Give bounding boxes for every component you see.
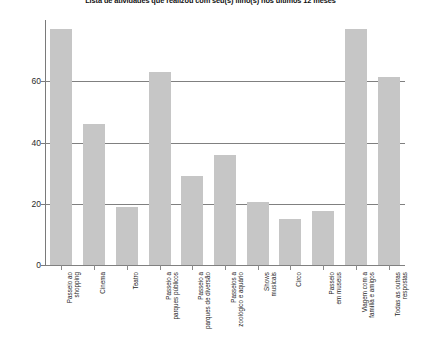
bar <box>378 77 400 265</box>
x-axis-tick-mark <box>258 265 259 270</box>
plot-area <box>45 20 405 265</box>
y-axis: 0204060 <box>0 20 41 266</box>
x-axis-tick-mark <box>389 265 390 270</box>
y-axis-tick-label: 20 <box>7 199 41 209</box>
x-axis-tick-mark <box>160 265 161 270</box>
x-axis-tick-mark <box>61 265 62 270</box>
x-axis-tick-mark <box>356 265 357 270</box>
x-axis-category-label: Todas as outrasrespostas <box>394 272 408 358</box>
x-axis-tick-mark <box>225 265 226 270</box>
x-axis-ticks <box>45 265 406 270</box>
x-axis-category-label: Viagem com afamília e amigos <box>361 272 375 358</box>
x-axis-category-label: Passeio aparques públicos <box>165 272 179 358</box>
y-axis-tick-label: 40 <box>7 138 41 148</box>
x-axis-category-label: Circo <box>295 272 309 358</box>
bar <box>345 29 367 265</box>
bar <box>149 72 171 265</box>
bar <box>279 219 301 265</box>
bar <box>83 124 105 265</box>
x-axis-labels: Passeio aoshoppingCinemaTeatroPasseio ap… <box>45 272 406 360</box>
bar-chart: Lista de atividades que realizou com seu… <box>0 0 421 361</box>
x-axis-category-label: Teatro <box>132 272 146 358</box>
x-axis-tick-mark <box>323 265 324 270</box>
x-axis-tick-mark <box>94 265 95 270</box>
bar <box>181 176 203 265</box>
bar <box>214 155 236 265</box>
y-axis-tick-label: 60 <box>7 76 41 86</box>
x-axis-category-label: Showsmusicais <box>263 272 277 358</box>
y-axis-tick-label: 0 <box>7 260 41 270</box>
x-axis-tick-mark <box>127 265 128 270</box>
bar <box>116 207 138 265</box>
bar <box>50 29 72 265</box>
x-axis-category-label: Passeioem museus <box>328 272 342 358</box>
x-axis-tick-mark <box>192 265 193 270</box>
x-axis-category-label: Passeio aoshopping <box>66 272 80 358</box>
x-axis-category-label: Cinema <box>99 272 113 358</box>
x-axis-tick-mark <box>290 265 291 270</box>
bar <box>312 211 334 265</box>
chart-title: Lista de atividades que realizou com seu… <box>0 0 421 6</box>
bar <box>247 202 269 265</box>
x-axis-category-label: Passeios azoológico e aquário <box>230 272 244 358</box>
x-axis-category-label: Passeio aparques de diversão <box>197 272 211 358</box>
